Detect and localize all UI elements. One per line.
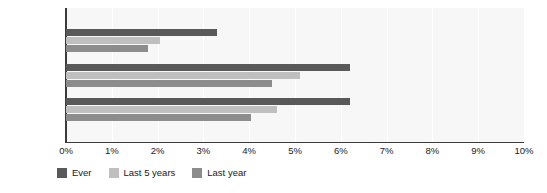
bar-chart: Outside cityOther cityDublin 0%1%2%3%4%5… [0, 0, 547, 193]
bar [66, 98, 350, 105]
x-tick-label: 4% [229, 146, 269, 156]
legend-swatch-icon [192, 168, 202, 178]
bar-row [66, 72, 524, 79]
legend-item[interactable]: Ever [57, 168, 92, 178]
x-tick-label: 10% [504, 146, 544, 156]
x-tick-label: 8% [412, 146, 452, 156]
x-tick-label: 5% [275, 146, 315, 156]
x-tick-label: 6% [321, 146, 361, 156]
bar-row [66, 114, 524, 121]
legend-label: Last year [207, 168, 246, 178]
x-tick-label: 9% [458, 146, 498, 156]
bar-row [66, 37, 524, 44]
bar-row [66, 106, 524, 113]
bar-row [66, 64, 524, 71]
bar [66, 80, 272, 87]
bar-group [66, 29, 524, 53]
x-tick-label: 1% [92, 146, 132, 156]
bar [66, 37, 160, 44]
bar [66, 114, 251, 121]
bar-row [66, 29, 524, 36]
x-tick-label: 3% [183, 146, 223, 156]
chart-legend: EverLast 5 yearsLast year [57, 168, 246, 178]
x-axis-line [65, 142, 524, 143]
bar [66, 106, 277, 113]
legend-label: Ever [72, 168, 92, 178]
legend-swatch-icon [57, 168, 67, 178]
bar-row [66, 98, 524, 105]
legend-label: Last 5 years [124, 168, 176, 178]
bar [66, 29, 217, 36]
x-tick-label: 0% [46, 146, 86, 156]
bar-row [66, 80, 524, 87]
bar [66, 45, 148, 52]
bar-group [66, 98, 524, 122]
gridline [524, 8, 525, 142]
legend-item[interactable]: Last 5 years [109, 168, 176, 178]
x-tick-label: 2% [138, 146, 178, 156]
plot-area [66, 8, 524, 142]
bar-group [66, 64, 524, 88]
legend-item[interactable]: Last year [192, 168, 246, 178]
bar-row [66, 45, 524, 52]
legend-swatch-icon [109, 168, 119, 178]
bar [66, 64, 350, 71]
x-tick-label: 7% [367, 146, 407, 156]
bar [66, 72, 300, 79]
